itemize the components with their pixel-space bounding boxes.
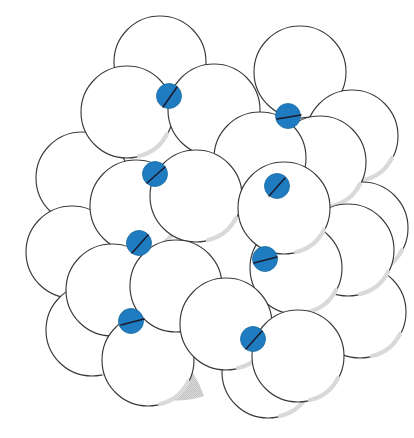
crystal-structure-canvas: Close-packed sphere crystal structure wi…	[0, 0, 414, 438]
host-sphere	[150, 150, 242, 242]
interstitial-atom	[127, 231, 152, 256]
interstitial-atom	[276, 104, 302, 129]
interstitial-atom	[143, 162, 168, 187]
interstitial-atom	[157, 84, 182, 109]
interstitial-atom	[253, 247, 278, 272]
host-sphere	[252, 310, 344, 402]
interstitial-atom	[119, 309, 145, 334]
host-sphere	[81, 66, 173, 158]
interstitial-atom	[241, 327, 266, 352]
crystal-structure-figure: Close-packed sphere crystal structure wi…	[0, 0, 414, 438]
interstitial-atom	[265, 174, 290, 199]
